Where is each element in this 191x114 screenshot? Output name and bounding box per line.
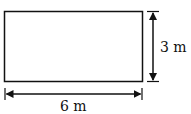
rectangle (5, 12, 143, 82)
height-dimension: 3 m (147, 12, 187, 82)
height-label: 3 m (160, 39, 187, 55)
width-dimension: 6 m (5, 88, 142, 114)
width-label: 6 m (60, 98, 87, 114)
rectangle-dimension-diagram: 3 m 6 m (0, 0, 191, 114)
